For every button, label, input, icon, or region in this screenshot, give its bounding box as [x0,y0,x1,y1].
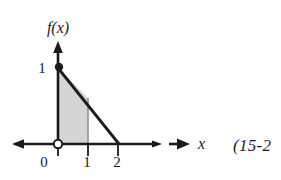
x-tick-label-1: 1 [83,154,91,170]
function-graph-figure: 1 f(x) x 0 1 2 (15-2 [0,0,281,180]
closed-endpoint-dot [55,63,63,71]
open-endpoint-circle [54,140,62,148]
figure-page: 1 f(x) x 0 1 2 (15-2 [0,0,281,180]
x-axis-label: x [197,135,205,152]
y-axis-label: f(x) [47,19,69,37]
y-axis-up-arrowhead [53,41,63,53]
x-axis-inner-arrowhead [152,140,162,147]
y-value-label-1: 1 [38,60,46,76]
x-tick-label-2: 2 [113,154,121,170]
x-axis-left-arrowhead [12,139,24,149]
figure-caption: (15-2 [233,136,272,155]
x-axis-right-arrowhead [177,139,190,150]
shaded-area-region [58,68,88,144]
x-tick-label-0: 0 [40,154,48,170]
